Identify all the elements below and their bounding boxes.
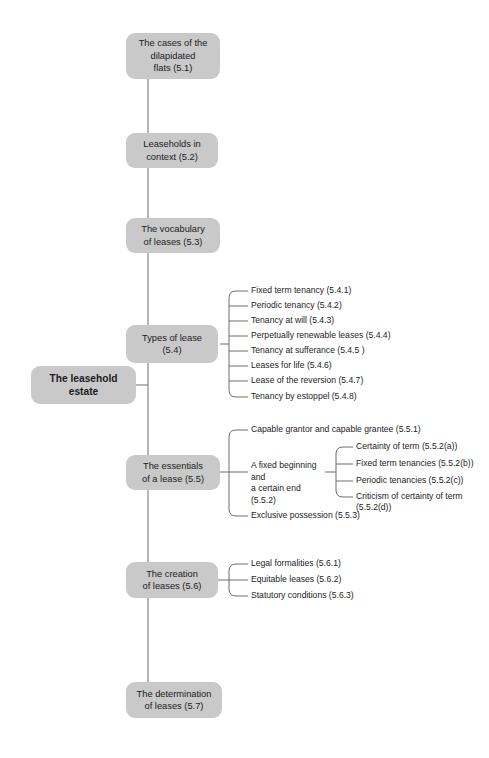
leaf-5-4-1[interactable]: Fixed term tenancy (5.4.1) <box>251 285 351 296</box>
leaf-5-4-4[interactable]: Perpetually renewable leases (5.4.4) <box>251 330 391 341</box>
branch-5-5-bracket <box>229 430 236 516</box>
branch-5-6-bracket <box>229 564 236 596</box>
node-5-4[interactable]: Types of lease (5.4) <box>126 325 218 363</box>
node-5-3[interactable]: The vocabulary of leases (5.3) <box>126 218 220 253</box>
leaf-5-5-1[interactable]: Capable grantor and capable grantee (5.5… <box>251 424 421 435</box>
leaf-5-6-2[interactable]: Equitable leases (5.6.2) <box>251 574 341 585</box>
branch-5-4-bracket <box>229 291 236 397</box>
leaf-5-6-1[interactable]: Legal formalities (5.6.1) <box>251 558 341 569</box>
node-5-5[interactable]: The essentials of a lease (5.5) <box>126 455 220 490</box>
leaf-5-4-8[interactable]: Tenancy by estoppel (5.4.8) <box>251 391 357 402</box>
leaf-5-4-5[interactable]: Tenancy at sufferance (5.4.5 ) <box>251 345 365 356</box>
leaf-5-6-3[interactable]: Statutory conditions (5.6.3) <box>251 590 354 601</box>
root-node[interactable]: The leasehold estate <box>31 366 136 404</box>
leaf-5-4-2[interactable]: Periodic tenancy (5.4.2) <box>251 300 342 311</box>
node-5-2[interactable]: Leaseholds in context (5.2) <box>126 133 218 168</box>
leaf-5-5-2-a[interactable]: Certainty of term (5.5.2(a)) <box>356 441 457 452</box>
leaf-5-4-6[interactable]: Leases for life (5.4.6) <box>251 360 332 371</box>
leaf-5-5-2-b[interactable]: Fixed term tenancies (5.5.2(b)) <box>356 458 474 469</box>
node-5-1[interactable]: The cases of the dilapidated flats (5.1) <box>126 33 220 79</box>
leaf-5-5-2-d[interactable]: Criticism of certainty of term (5.5.2(d)… <box>356 491 489 513</box>
leaf-5-4-3[interactable]: Tenancy at will (5.4.3) <box>251 315 334 326</box>
leaf-5-5-3[interactable]: Exclusive possession (5.5.3) <box>251 510 360 521</box>
leaf-5-5-2[interactable]: A fixed beginning and a certain end (5.5… <box>251 460 327 506</box>
node-5-6[interactable]: The creation of leases (5.6) <box>126 562 218 598</box>
node-5-7[interactable]: The determination of leases (5.7) <box>126 682 222 718</box>
leaf-5-4-7[interactable]: Lease of the reversion (5.4.7) <box>251 375 363 386</box>
mindmap-canvas: The leasehold estate The cases of the di… <box>0 0 489 758</box>
branch-5-5-2-bracket <box>336 447 343 497</box>
leaf-5-5-2-c[interactable]: Periodic tenancies (5.5.2(c)) <box>356 475 463 486</box>
